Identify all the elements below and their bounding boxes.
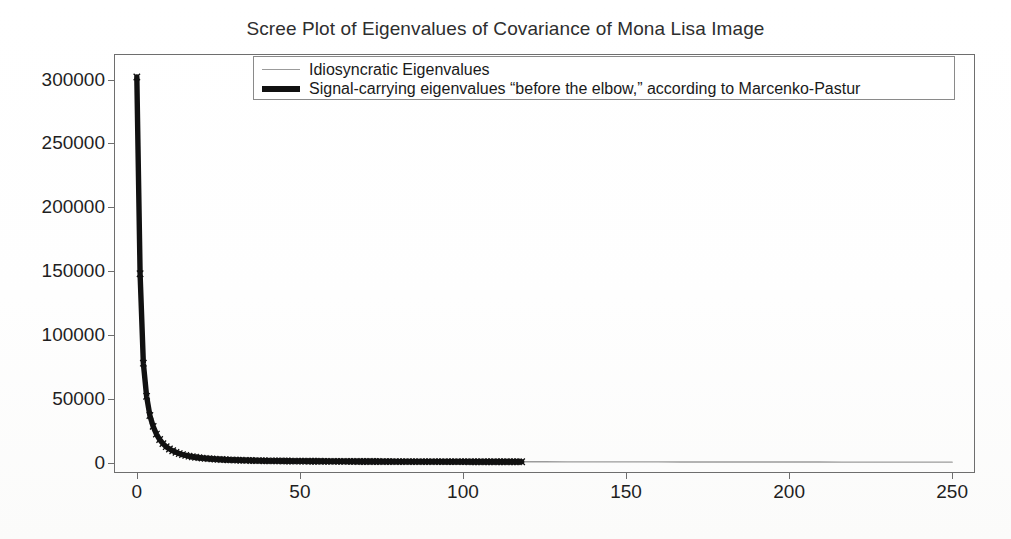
y-axis-tick-labels: 050000100000150000200000250000300000 — [0, 0, 114, 539]
y-axis-tick-label: 150000 — [42, 260, 114, 282]
chart-legend: Idiosyncratic Eigenvalues Signal-carryin… — [253, 56, 955, 100]
x-axis-tick-label: 0 — [132, 481, 143, 503]
x-axis-tick-label: 250 — [936, 481, 968, 503]
series-signal-line — [137, 77, 522, 462]
legend-entry-idiosyncratic: Idiosyncratic Eigenvalues — [262, 60, 946, 79]
legend-entry-signal: Signal-carrying eigenvalues “before the … — [262, 79, 946, 98]
series-signal-markers — [134, 74, 525, 465]
legend-swatch-thin-line-icon — [262, 63, 300, 77]
legend-swatch-thick-line-icon — [262, 82, 300, 96]
x-axis-tick-mark — [463, 473, 464, 479]
x-axis-tick-mark — [300, 473, 301, 479]
x-axis-tick-label: 200 — [773, 481, 805, 503]
scree-plot-figure: Scree Plot of Eigenvalues of Covariance … — [0, 0, 1011, 539]
chart-title: Scree Plot of Eigenvalues of Covariance … — [0, 18, 1011, 40]
legend-label-signal: Signal-carrying eigenvalues “before the … — [309, 79, 860, 98]
y-axis-tick-label: 100000 — [42, 324, 114, 346]
series-layer — [134, 74, 953, 465]
y-axis-tick-label: 300000 — [42, 69, 114, 91]
y-axis-tick-label: 200000 — [42, 196, 114, 218]
x-axis-tick-mark — [952, 473, 953, 479]
x-axis-tick-mark — [137, 473, 138, 479]
y-axis-tick-label: 50000 — [52, 388, 114, 410]
x-axis-tick-mark — [626, 473, 627, 479]
x-axis-tick-label: 50 — [289, 481, 310, 503]
x-axis-tick-mark — [789, 473, 790, 479]
x-axis-tick-label: 100 — [447, 481, 479, 503]
x-axis-tick-label: 150 — [610, 481, 642, 503]
legend-label-idiosyncratic: Idiosyncratic Eigenvalues — [309, 60, 490, 79]
y-axis-tick-label: 250000 — [42, 132, 114, 154]
plot-canvas — [114, 54, 975, 473]
